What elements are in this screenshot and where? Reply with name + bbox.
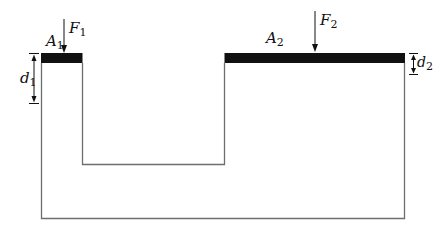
piston-1 — [41, 53, 83, 63]
force-arrow-2 — [312, 11, 318, 52]
hydraulic-press-diagram: F1 A1 d1 F2 A2 d2 — [0, 0, 446, 229]
displacement-label-2: d2 — [417, 54, 433, 73]
area-label-1: A1 — [44, 32, 64, 52]
area-label-2: A2 — [264, 29, 284, 49]
vessel-outline — [42, 63, 405, 219]
piston-2 — [225, 53, 406, 63]
force-label-1: F1 — [68, 19, 86, 39]
force-label-2: F2 — [319, 11, 337, 31]
